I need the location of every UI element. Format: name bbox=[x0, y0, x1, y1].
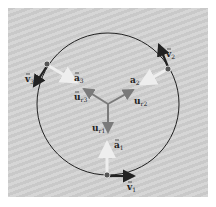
unit-vector-r3-arrow bbox=[84, 89, 108, 104]
label-u3: ur3 bbox=[74, 92, 87, 103]
particle-3 bbox=[44, 61, 50, 67]
particle-2 bbox=[165, 66, 171, 72]
label-u1: ur1 bbox=[92, 123, 105, 134]
circular-motion-diagram: v1 v2 v3 a1 a2 a3 ur1 ur2 ur3 bbox=[0, 0, 216, 207]
label-v3: v3 bbox=[24, 74, 34, 85]
label-v1: v1 bbox=[126, 182, 136, 193]
label-a1: a1 bbox=[114, 140, 124, 151]
label-a3: a3 bbox=[74, 73, 84, 84]
particle-1 bbox=[104, 172, 110, 178]
label-a2: a2 bbox=[130, 75, 140, 86]
unit-vector-r2-arrow bbox=[108, 90, 133, 104]
labels: v1 v2 v3 a1 a2 a3 ur1 ur2 ur3 bbox=[24, 49, 175, 193]
acceleration-a3-arrow bbox=[49, 66, 76, 82]
velocity-vectors bbox=[34, 45, 168, 176]
label-v2: v2 bbox=[165, 49, 175, 60]
label-u2: ur2 bbox=[134, 96, 147, 107]
acceleration-a2-arrow bbox=[141, 70, 166, 84]
